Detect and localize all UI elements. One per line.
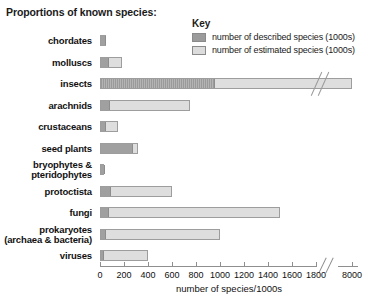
axis-tick bbox=[220, 262, 221, 267]
bar-estimated bbox=[100, 57, 122, 68]
bar-described bbox=[101, 36, 106, 45]
axis-line-segment-2 bbox=[338, 266, 358, 267]
bar-described bbox=[101, 58, 109, 67]
plot-area: chordatesmolluscsinsectsarachnidscrustac… bbox=[0, 30, 374, 266]
bar-estimated bbox=[100, 100, 190, 111]
chart-row: insects bbox=[0, 75, 374, 95]
bar-described bbox=[101, 230, 106, 239]
category-label: molluscs bbox=[0, 58, 92, 68]
category-label: seed plants bbox=[0, 144, 92, 154]
axis-tick bbox=[196, 262, 197, 267]
chart-row: crustaceans bbox=[0, 118, 374, 138]
bar-estimated bbox=[100, 164, 104, 175]
bar-described bbox=[101, 208, 109, 217]
bar-estimated bbox=[100, 250, 148, 261]
bar-estimated bbox=[100, 207, 280, 218]
x-axis-title: number of species/1000s bbox=[100, 283, 358, 294]
category-label: fungi bbox=[0, 208, 92, 218]
category-label: viruses bbox=[0, 251, 92, 261]
legend-title: Key bbox=[192, 18, 355, 29]
category-label: prokaryotes(archaea & bacteria) bbox=[0, 225, 92, 245]
chart-row: chordates bbox=[0, 32, 374, 52]
category-label: arachnids bbox=[0, 101, 92, 111]
category-label: insects bbox=[0, 79, 92, 89]
bar-described bbox=[101, 79, 215, 88]
axis-tick bbox=[292, 262, 293, 267]
chart-row: molluscs bbox=[0, 54, 374, 74]
axis-tick bbox=[316, 262, 317, 267]
bar-described bbox=[101, 122, 106, 131]
category-label: bryophytes &pteridophytes bbox=[0, 160, 92, 180]
bar-described bbox=[101, 144, 133, 153]
axis-tick-label: 800 bbox=[188, 270, 203, 280]
axis-tick-label: 1600 bbox=[282, 270, 302, 280]
category-label: chordates bbox=[0, 36, 92, 46]
chart-row: bryophytes &pteridophytes bbox=[0, 161, 374, 181]
axis-tick bbox=[148, 262, 149, 267]
bar-estimated bbox=[100, 143, 138, 154]
bar-estimated bbox=[100, 78, 352, 89]
x-axis: number of species/1000s 0200400600800100… bbox=[0, 266, 374, 304]
axis-tick-label: 8000 bbox=[342, 270, 362, 280]
axis-tick bbox=[100, 262, 101, 267]
category-label-line2: pteridophytes bbox=[0, 170, 92, 180]
axis-tick-label: 1800 bbox=[306, 270, 326, 280]
page-title: Proportions of known species: bbox=[6, 6, 157, 18]
species-bar-chart: Proportions of known species: Key number… bbox=[0, 0, 374, 304]
axis-tick-label: 600 bbox=[164, 270, 179, 280]
chart-row: prokaryotes(archaea & bacteria) bbox=[0, 226, 374, 246]
bar-described bbox=[101, 165, 105, 174]
bar-estimated bbox=[100, 186, 172, 197]
category-label-line2: (archaea & bacteria) bbox=[0, 235, 92, 245]
axis-tick bbox=[352, 262, 353, 267]
axis-tick bbox=[244, 262, 245, 267]
axis-tick bbox=[268, 262, 269, 267]
category-label: protoctista bbox=[0, 187, 92, 197]
chart-row: protoctista bbox=[0, 183, 374, 203]
bar-estimated bbox=[100, 121, 118, 132]
bar-described bbox=[101, 251, 104, 260]
bar-estimated bbox=[100, 35, 106, 46]
axis-tick-label: 1200 bbox=[234, 270, 254, 280]
axis-tick bbox=[172, 262, 173, 267]
axis-tick-label: 200 bbox=[116, 270, 131, 280]
axis-tick-label: 0 bbox=[97, 270, 102, 280]
chart-row: arachnids bbox=[0, 97, 374, 117]
axis-tick-label: 1000 bbox=[210, 270, 230, 280]
axis-line-segment-1 bbox=[100, 266, 316, 267]
bar-described bbox=[101, 187, 111, 196]
axis-tick-label: 400 bbox=[140, 270, 155, 280]
axis-tick bbox=[124, 262, 125, 267]
category-label: crustaceans bbox=[0, 122, 92, 132]
axis-tick-label: 1400 bbox=[258, 270, 278, 280]
chart-row: fungi bbox=[0, 204, 374, 224]
bar-estimated bbox=[100, 229, 220, 240]
bar-described bbox=[101, 101, 110, 110]
chart-row: seed plants bbox=[0, 140, 374, 160]
